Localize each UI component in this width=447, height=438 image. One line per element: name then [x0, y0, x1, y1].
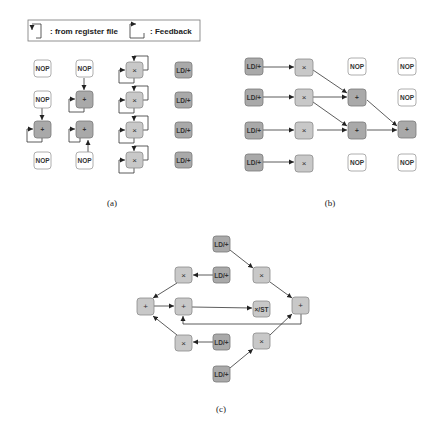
panel-c-node-mul-bottom-left: ×	[175, 335, 192, 351]
panel-b-node-nop: NOP	[348, 154, 366, 171]
panel-b-node-mul: ×	[295, 89, 313, 106]
svg-text:+: +	[405, 126, 409, 133]
panel-c-node-mul-store: ×/ST	[253, 301, 270, 317]
svg-text:LD/+: LD/+	[214, 241, 228, 248]
panel-c-node-add-right: +	[292, 297, 309, 314]
panel-b-node-mul: ×	[295, 155, 313, 172]
svg-text:LD/+: LD/+	[176, 127, 190, 134]
dataflow-figure: : from register file : Feedback	[0, 0, 447, 438]
svg-text:×/ST: ×/ST	[255, 306, 269, 313]
svg-text:LD/+: LD/+	[214, 272, 228, 279]
svg-text:×: ×	[259, 337, 264, 346]
panel-b-node-nop: NOP	[348, 58, 366, 75]
panel-c-node-load-mid-top: LD/+	[213, 267, 230, 283]
panel-b-node-mul: ×	[295, 59, 313, 76]
panel-a-node-load: LD/+	[175, 152, 192, 168]
panel-b-node-add: +	[398, 121, 416, 138]
svg-text:LD/+: LD/+	[214, 339, 228, 346]
panel-a-node-nop: NOP	[34, 91, 51, 108]
panel-a-node-load: LD/+	[175, 122, 192, 138]
svg-text:×: ×	[181, 271, 186, 280]
svg-text:+: +	[83, 96, 87, 103]
panel-a: NOP NOP + NOP NOP + + NOP × × × × LD/+ L…	[27, 56, 192, 208]
panel-c-node-mul-bottom-right: ×	[253, 333, 270, 349]
panel-c-node-load-mid-bottom: LD/+	[213, 334, 230, 350]
panel-b: LD/+ LD/+ LD/+ LD/+ × × × × NOP + + NOP …	[245, 58, 416, 208]
panel-b-node-add: +	[348, 89, 366, 106]
svg-text:LD/+: LD/+	[247, 127, 261, 134]
panel-a-node-nop: NOP	[76, 60, 93, 77]
svg-text:+: +	[298, 301, 303, 310]
panel-b-node-load: LD/+	[245, 89, 263, 106]
legend-register-file-label: : from register file	[50, 27, 119, 36]
svg-text:×: ×	[132, 126, 137, 135]
panel-a-node-load: LD/+	[175, 62, 192, 78]
svg-text:LD/+: LD/+	[176, 67, 190, 74]
svg-text:×: ×	[132, 156, 137, 165]
panel-b-node-add: +	[348, 122, 366, 139]
svg-text:LD/+: LD/+	[247, 63, 261, 70]
svg-text:+: +	[355, 94, 359, 101]
legend-feedback-label: : Feedback	[150, 27, 192, 36]
panel-a-node-mul: ×	[126, 152, 143, 168]
svg-text:NOP: NOP	[400, 63, 415, 70]
svg-text:×: ×	[302, 93, 307, 102]
svg-text:NOP: NOP	[35, 157, 50, 164]
panel-c-node-load-top: LD/+	[213, 236, 230, 252]
svg-text:NOP: NOP	[350, 159, 365, 166]
caption-a: (a)	[107, 198, 117, 208]
svg-text:×: ×	[181, 339, 186, 348]
panel-c-node-mul-top-right: ×	[253, 267, 270, 283]
svg-text:+: +	[355, 127, 359, 134]
panel-a-node-add: +	[76, 121, 93, 138]
svg-text:×: ×	[132, 66, 137, 75]
svg-text:×: ×	[302, 159, 307, 168]
svg-text:×: ×	[259, 271, 264, 280]
panel-b-node-load: LD/+	[245, 154, 263, 171]
legend: : from register file : Feedback	[28, 20, 200, 41]
panel-a-node-mul: ×	[126, 122, 143, 138]
svg-text:LD/+: LD/+	[176, 97, 190, 104]
svg-text:+: +	[41, 126, 45, 133]
svg-text:LD/+: LD/+	[247, 94, 261, 101]
panel-b-node-load: LD/+	[245, 122, 263, 139]
svg-text:NOP: NOP	[350, 63, 365, 70]
panel-c-node-add-left: +	[137, 298, 154, 315]
panel-b-node-nop: NOP	[398, 154, 416, 171]
panel-c-node-add-center: +	[175, 298, 192, 315]
panel-a-node-nop: NOP	[76, 152, 93, 169]
svg-text:NOP: NOP	[35, 96, 50, 103]
svg-text:NOP: NOP	[400, 94, 415, 101]
svg-text:×: ×	[302, 63, 307, 72]
panel-a-node-load: LD/+	[175, 92, 192, 108]
caption-c: (c)	[216, 404, 226, 414]
svg-text:LD/+: LD/+	[176, 157, 190, 164]
svg-text:×: ×	[302, 126, 307, 135]
svg-text:+: +	[83, 126, 87, 133]
svg-text:LD/+: LD/+	[247, 159, 261, 166]
panel-a-node-add: +	[76, 91, 93, 108]
panel-a-node-add: +	[34, 121, 51, 138]
svg-text:NOP: NOP	[400, 159, 415, 166]
svg-text:NOP: NOP	[77, 65, 92, 72]
panel-b-node-nop: NOP	[398, 89, 416, 106]
panel-c-node-load-bottom: LD/+	[213, 366, 230, 382]
svg-text:×: ×	[132, 96, 137, 105]
panel-c: LD/+ × LD/+ × + + ×/ST + × LD/+ × LD/+ (…	[137, 236, 309, 414]
panel-b-node-mul: ×	[295, 122, 313, 139]
panel-b-node-nop: NOP	[398, 58, 416, 75]
panel-a-node-nop: NOP	[34, 60, 51, 77]
panel-a-node-nop: NOP	[34, 152, 51, 169]
svg-text:NOP: NOP	[77, 157, 92, 164]
svg-text:LD/+: LD/+	[214, 371, 228, 378]
svg-text:+: +	[143, 302, 148, 311]
panel-a-node-mul: ×	[126, 62, 143, 78]
panel-b-node-load: LD/+	[245, 58, 263, 75]
panel-b-edges	[263, 67, 397, 162]
svg-text:+: +	[181, 302, 186, 311]
panel-a-node-mul: ×	[126, 92, 143, 108]
svg-text:NOP: NOP	[35, 65, 50, 72]
caption-b: (b)	[325, 198, 336, 208]
panel-c-node-mul-top-left: ×	[175, 267, 192, 283]
